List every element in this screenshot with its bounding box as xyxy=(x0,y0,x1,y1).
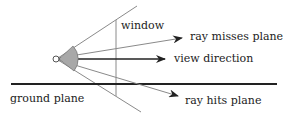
ray-casting-diagram: window ray misses plane view direction g… xyxy=(0,0,296,117)
window-label: window xyxy=(121,19,165,32)
ray-hits-plane-label: ray hits plane xyxy=(185,94,261,107)
eye-point-icon xyxy=(53,56,59,62)
diagram-canvas: window ray misses plane view direction g… xyxy=(0,0,296,117)
ground-plane-label: ground plane xyxy=(10,92,84,105)
ray-misses-plane-label: ray misses plane xyxy=(190,30,283,43)
view-direction-label: view direction xyxy=(173,52,253,65)
view-fan xyxy=(59,46,78,71)
